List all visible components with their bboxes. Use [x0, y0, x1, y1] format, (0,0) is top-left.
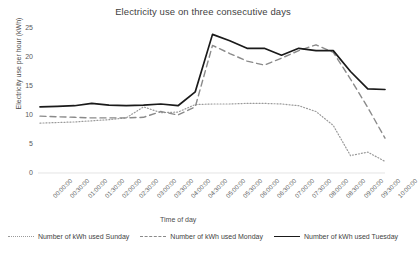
legend-item-label: Number of kWh used Tuesday	[304, 233, 398, 240]
legend-swatch-icon-0	[8, 236, 34, 237]
legend-item-label: Number of kWh used Monday	[170, 233, 263, 240]
series-group	[40, 34, 385, 161]
legend-swatch-icon-2	[274, 236, 300, 237]
legend-item-1[interactable]: Number of kWh used Monday	[140, 233, 263, 240]
legend-item-label: Number of kWh used Sunday	[38, 233, 129, 240]
chart-legend: Number of kWh used SundayNumber of kWh u…	[0, 233, 406, 240]
legend-item-0[interactable]: Number of kWh used Sunday	[8, 233, 129, 240]
series-line-0	[40, 103, 385, 161]
x-axis-label: Time of day	[160, 216, 196, 223]
series-line-1	[40, 45, 385, 138]
legend-item-2[interactable]: Number of kWh used Tuesday	[274, 233, 398, 240]
legend-swatch-icon-1	[140, 236, 166, 237]
